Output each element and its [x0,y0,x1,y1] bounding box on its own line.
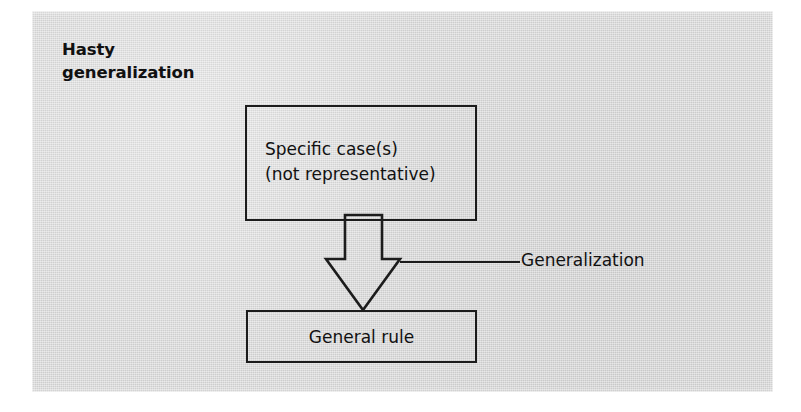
diagram-title-line-2: generalization [62,61,252,84]
diagram-title-line-1: Hasty [62,38,252,61]
node-general-rule-label: General rule [248,312,475,361]
generalization-arrow-icon [318,215,410,315]
node-specific-case-label: Specific case(s) (not representative) [265,137,436,187]
generalization-label: Generalization [521,250,645,270]
node-specific-case-line-2: (not representative) [265,162,436,187]
generalization-leader-line [400,261,520,263]
node-specific-case-line-1: Specific case(s) [265,137,436,162]
node-specific-case: Specific case(s) (not representative) [245,105,477,221]
node-general-rule: General rule [246,310,477,363]
diagram-title: Hasty generalization [62,38,252,85]
figure-root: Hasty generalization Specific case(s) (n… [0,0,801,412]
